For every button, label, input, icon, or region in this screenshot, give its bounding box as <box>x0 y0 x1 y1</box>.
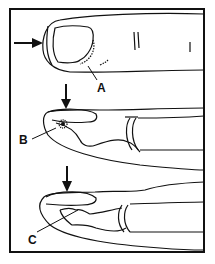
pointer-b <box>32 128 56 139</box>
label-a: A <box>97 82 106 94</box>
finger-diagram <box>0 0 215 264</box>
arrow-panel-1 <box>14 38 43 48</box>
label-c: C <box>28 234 37 246</box>
panel-1-finger <box>43 13 204 72</box>
arrow-panel-2 <box>61 84 71 109</box>
arrow-panel-3 <box>62 166 72 192</box>
frame-border <box>10 9 204 252</box>
panel-3-finger <box>40 182 204 250</box>
label-b: B <box>19 134 28 146</box>
panel-2-finger <box>44 108 205 170</box>
pointer-a <box>88 66 97 80</box>
pointer-c <box>37 210 78 232</box>
